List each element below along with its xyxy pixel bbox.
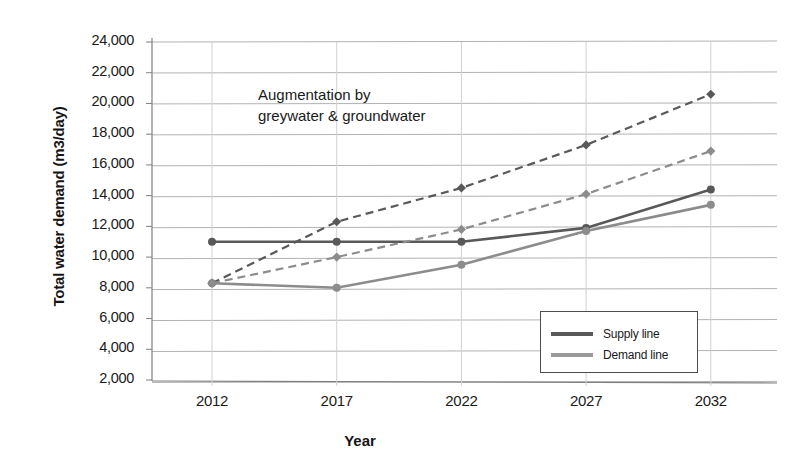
data-point-marker [582, 190, 591, 199]
data-point-marker [706, 90, 715, 99]
y-tick-label: 10,000 [54, 247, 134, 263]
gridline [152, 103, 777, 104]
data-point-marker [457, 183, 466, 192]
data-point-marker [707, 201, 715, 209]
y-tick-label: 20,000 [54, 93, 134, 109]
legend-entry-supply: Supply line [551, 324, 660, 344]
data-point-marker [582, 227, 590, 235]
annotation-line-1: Augmentation by [258, 86, 371, 103]
chart-legend: Supply line Demand line [540, 311, 698, 373]
y-tick-label: 8,000 [54, 278, 134, 294]
gridline [152, 196, 777, 197]
gridline [152, 72, 777, 73]
legend-label-supply: Supply line [603, 327, 660, 341]
y-tick-label: 18,000 [54, 124, 134, 140]
gridline [152, 258, 777, 259]
y-tick-label: 4,000 [54, 339, 134, 355]
y-tick-label: 22,000 [54, 63, 134, 79]
x-tick-label: 2022 [421, 392, 501, 409]
x-tick-label: 2012 [172, 392, 252, 409]
x-tick-label: 2032 [671, 392, 751, 409]
data-point-marker [457, 225, 466, 234]
x-tick-label: 2027 [546, 392, 626, 409]
legend-swatch-demand [551, 353, 593, 357]
data-point-marker [457, 238, 465, 246]
data-point-marker [333, 238, 341, 246]
y-tick-label: 12,000 [54, 216, 134, 232]
data-point-marker [582, 140, 591, 149]
gridline [152, 289, 777, 290]
gridline [152, 165, 777, 166]
gridline [152, 227, 777, 228]
data-point-marker [333, 284, 341, 292]
gridline [152, 134, 777, 135]
data-point-marker [332, 252, 341, 261]
legend-label-demand: Demand line [603, 348, 668, 362]
x-tick-label: 2017 [297, 392, 377, 409]
data-point-marker [707, 185, 715, 193]
annotation-line-2: greywater & groundwater [258, 107, 426, 124]
data-point-marker [706, 146, 715, 155]
y-tick-label: 16,000 [54, 155, 134, 171]
y-tick-label: 24,000 [54, 32, 134, 48]
x-axis-title: Year [160, 432, 560, 449]
legend-swatch-supply [551, 332, 593, 336]
data-point-marker [332, 217, 341, 226]
y-tick-label: 2,000 [54, 370, 134, 386]
data-point-marker [208, 238, 216, 246]
gridline [152, 41, 777, 42]
y-tick-label: 14,000 [54, 186, 134, 202]
legend-entry-demand: Demand line [551, 345, 668, 365]
augmentation-annotation: Augmentation bygreywater & groundwater [258, 84, 426, 126]
data-point-marker [457, 261, 465, 269]
y-axis-ticks [146, 42, 152, 380]
y-tick-label: 6,000 [54, 309, 134, 325]
chart-figure: Total water demand (m3/day) Year Augment… [0, 0, 810, 473]
data-point-marker [207, 279, 216, 288]
